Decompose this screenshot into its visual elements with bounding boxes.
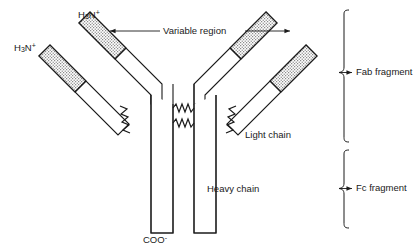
disulfide-hinge-lower — [173, 119, 194, 127]
antibody-structure-figure: H3N+ H3N+ Variable region Light chain He… — [0, 0, 417, 247]
heavy-chain-label: Heavy chain — [207, 184, 259, 194]
fab-fragment-label: Fab fragment — [356, 67, 413, 77]
variable-region-label: Variable region — [163, 26, 226, 36]
fc-fragment-label: Fc fragment — [356, 183, 407, 193]
disulfide-hinge-upper — [173, 104, 194, 112]
heavy-chain-right-arm-variable-region — [230, 12, 277, 59]
light-chain-label: Light chain — [245, 130, 291, 140]
fc-brace — [339, 150, 349, 228]
heavy-chain-stem-left — [151, 95, 173, 233]
heavy-chain-stem-right — [194, 95, 216, 233]
fab-brace — [339, 10, 349, 142]
c-terminus-label: COO- — [143, 234, 167, 244]
n-terminus-label-upper: H3N+ — [78, 9, 100, 20]
light-chain-right-variable-region — [270, 45, 317, 92]
light-chain-left-variable-region — [39, 45, 86, 92]
n-terminus-label-lower: H3N+ — [14, 42, 36, 53]
antibody-diagram-svg — [0, 0, 417, 247]
